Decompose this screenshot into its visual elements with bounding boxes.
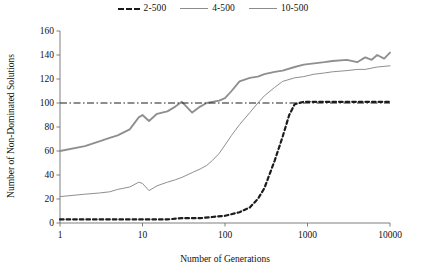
y-tick-label: 80 bbox=[45, 122, 55, 132]
x-tick-label: 1000 bbox=[298, 230, 317, 240]
series-line-2-500 bbox=[60, 102, 390, 220]
legend-label-2-500: 2-500 bbox=[144, 4, 167, 14]
chart-plot-area: 020406080100120140160 110100100010000 Nu… bbox=[0, 0, 426, 270]
x-tick-label: 1 bbox=[58, 230, 63, 240]
y-axis-title: Number of Non-Dominated Solutions bbox=[6, 54, 16, 198]
legend-label-10-500: 10-500 bbox=[281, 4, 309, 14]
x-tick-label: 10 bbox=[138, 230, 148, 240]
series-lines bbox=[60, 53, 390, 220]
legend-label-4-500: 4-500 bbox=[212, 4, 235, 14]
y-tick-label: 120 bbox=[40, 74, 55, 84]
x-tick-label: 100 bbox=[218, 230, 233, 240]
chart-figure: 2-500 4-500 10-500 020406080100120140160… bbox=[0, 0, 426, 270]
legend-swatch-solid-thick-icon bbox=[249, 8, 277, 9]
legend-item-10-500: 10-500 bbox=[249, 4, 309, 14]
chart-legend: 2-500 4-500 10-500 bbox=[0, 4, 426, 14]
y-tick-label: 140 bbox=[40, 50, 55, 60]
legend-swatch-dashed-icon bbox=[118, 8, 140, 10]
legend-item-4-500: 4-500 bbox=[180, 4, 235, 14]
y-tick-label: 20 bbox=[45, 194, 55, 204]
legend-swatch-solid-thin-icon bbox=[180, 8, 208, 9]
y-axis: 020406080100120140160 bbox=[40, 26, 60, 228]
y-tick-label: 0 bbox=[49, 218, 54, 228]
x-tick-label: 10000 bbox=[378, 230, 402, 240]
legend-item-2-500: 2-500 bbox=[118, 4, 167, 14]
y-tick-label: 60 bbox=[45, 146, 55, 156]
x-axis: 110100100010000 bbox=[58, 223, 403, 240]
y-tick-label: 100 bbox=[40, 98, 55, 108]
y-tick-label: 40 bbox=[45, 170, 55, 180]
y-tick-label: 160 bbox=[40, 26, 55, 36]
series-line-4-500 bbox=[60, 66, 390, 197]
x-axis-title: Number of Generations bbox=[180, 254, 270, 264]
